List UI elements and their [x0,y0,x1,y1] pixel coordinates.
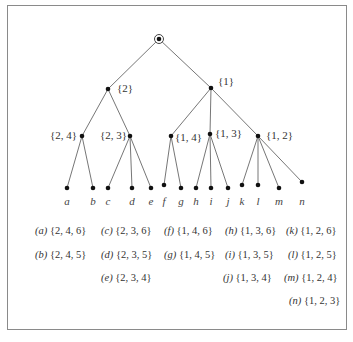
tree-edge [159,39,211,88]
leaf-label-i: i [209,195,212,207]
leaf-node-h [194,186,199,191]
legend-set: {1, 3, 5} [235,249,274,260]
tree-edge [210,134,211,188]
legend-key: (b) [35,249,47,260]
legend-set: {1, 4, 5} [176,249,215,260]
legend-entry: (j) {1, 3, 4} [223,272,272,284]
legend-set: {1, 3, 6} [237,225,276,236]
legend-key: (i) [225,249,235,260]
root-node [157,37,162,42]
tree-node-n1 [209,86,214,91]
tree-node-n13 [208,132,213,137]
tree-edge [171,136,181,188]
legend-key: (f) [164,225,174,236]
leaf-node-b [91,186,96,191]
leaf-node-c [106,186,111,191]
node-label-n14: {1, 4} [175,131,202,143]
legend-set: {2, 3, 5} [113,249,152,260]
tree-edge [130,136,132,188]
legend-entry: (l) {1, 2, 5} [288,249,337,261]
legend-set: {2, 4, 5} [47,249,86,260]
tree-edge [82,136,93,188]
legend-set: {1, 2, 4} [299,272,338,283]
legend-entry: (a) {2, 4, 6} [35,225,86,237]
leaf-node-e [149,186,154,191]
tree-node-n2 [106,87,111,92]
legend-key: (c) [101,225,113,236]
leaf-label-g: g [178,195,184,207]
leaf-label-f: f [162,195,165,207]
legend-entry: (k) {1, 2, 6} [286,225,337,237]
node-label-n13: {1, 3} [215,127,242,139]
leaf-label-d: d [129,195,135,207]
leaf-node-d [130,186,135,191]
node-label-n1: {1} [218,75,234,87]
leaf-label-l: l [256,195,259,207]
tree-edge [258,136,279,188]
tree-node-n23 [128,134,133,139]
leaf-label-c: c [106,195,111,207]
leaf-node-l [256,183,261,188]
legend-key: (g) [164,249,176,260]
tree-edge [67,136,82,188]
tree-node-n14 [169,134,174,139]
legend-set: {1, 3, 4} [233,272,272,283]
leaf-node-i [209,186,214,191]
node-label-n2: {2} [117,82,133,94]
legend-entry: (f) {1, 4, 6} [164,225,213,237]
tree-node-n12 [256,134,261,139]
legend-entry: (g) {1, 4, 5} [164,249,215,261]
legend-key: (h) [225,225,237,236]
legend-entry: (h) {1, 3, 6} [225,225,276,237]
leaf-label-m: m [275,195,283,207]
leaf-node-f [162,183,167,188]
legend-set: {2, 4, 6} [47,225,86,236]
legend-key: (e) [101,272,113,283]
tree-edge [258,136,302,182]
node-label-n24: {2, 4} [50,129,77,141]
tree-edge [130,136,151,188]
leaf-label-n: n [299,195,305,207]
legend-entry: (e) {2, 3, 4} [101,272,152,284]
legend-set: {1, 2, 3} [301,295,340,306]
leaf-label-a: a [64,195,70,207]
legend-entry: (m) {1, 2, 4} [284,272,338,284]
legend-key: (m) [284,272,299,283]
tree-edge [108,39,159,89]
legend-set: {1, 2, 6} [298,225,337,236]
legend-key: (n) [289,295,301,306]
legend-set: {1, 2, 5} [298,249,337,260]
leaf-node-n [300,180,305,185]
legend-key: (a) [35,225,47,236]
tree-edge [210,134,228,188]
leaf-label-h: h [193,195,199,207]
legend-entry: (n) {1, 2, 3} [289,295,340,307]
legend-key: (d) [101,249,113,260]
legend-set: {1, 4, 6} [174,225,213,236]
node-label-n23: {2, 3} [100,129,127,141]
tree-node-n24 [80,134,85,139]
leaf-node-k [240,183,245,188]
tree-edge [242,136,258,185]
tree-edge [164,136,171,185]
legend-set: {2, 3, 6} [113,225,152,236]
leaf-node-g [179,186,184,191]
tree-diagram [0,0,353,342]
legend-entry: (i) {1, 3, 5} [225,249,274,261]
tree-edge [171,88,211,136]
legend-entry: (b) {2, 4, 5} [35,249,86,261]
legend-key: (j) [223,272,233,283]
legend-key: (k) [286,225,298,236]
leaf-label-j: j [226,195,229,207]
leaf-label-b: b [90,195,96,207]
leaf-node-a [65,186,70,191]
tree-edge [108,136,130,188]
legend-set: {2, 3, 4} [113,272,152,283]
legend-entry: (d) {2, 3, 5} [101,249,152,261]
leaf-label-e: e [149,195,154,207]
legend-entry: (c) {2, 3, 6} [101,225,152,237]
node-label-n12: {1, 2} [266,129,293,141]
tree-edge [210,88,211,134]
leaf-node-j [226,186,231,191]
leaf-label-k: k [240,195,245,207]
